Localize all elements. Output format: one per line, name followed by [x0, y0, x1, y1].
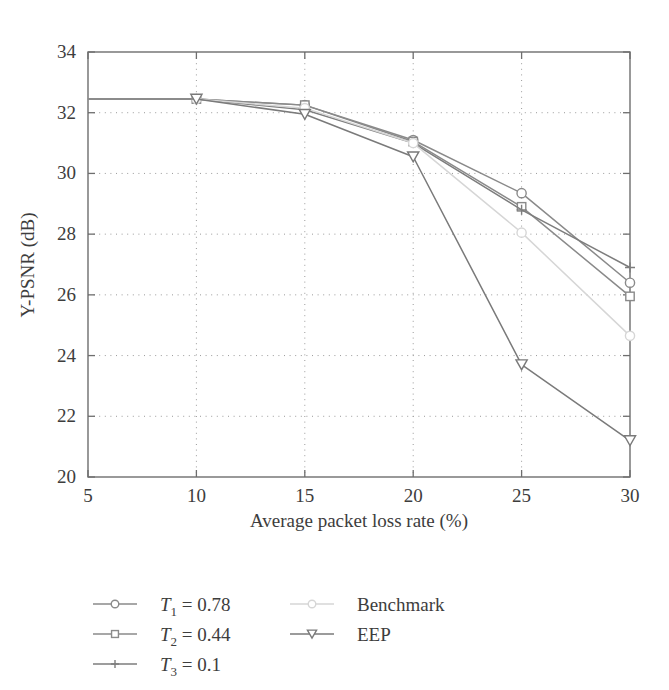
- legend-item-2[interactable]: T2 = 0.44: [93, 624, 231, 649]
- circle-marker: [517, 189, 526, 198]
- legend-label: EEP: [357, 624, 391, 645]
- gridlines: [88, 52, 630, 477]
- y-tick-label: 30: [57, 162, 76, 183]
- x-tick-label: 25: [512, 485, 531, 506]
- y-tick-label: 32: [57, 102, 76, 123]
- y-tick-label: 28: [57, 223, 76, 244]
- plus-marker: [111, 660, 119, 668]
- chart-svg: 2022242628303234 51015202530 Average pac…: [0, 0, 669, 690]
- x-tick-label: 15: [295, 485, 314, 506]
- x-axis-title: Average packet loss rate (%): [250, 510, 468, 532]
- circle-marker: [111, 600, 119, 608]
- circle-light-marker: [409, 138, 418, 147]
- legend-item-3[interactable]: T3 = 0.1: [93, 654, 221, 679]
- x-tick-label: 30: [621, 485, 640, 506]
- legend-label: T2 = 0.44: [160, 624, 231, 649]
- y-tick-labels: 2022242628303234: [57, 41, 77, 487]
- series-3: [88, 94, 635, 272]
- tick-marks: [88, 52, 630, 477]
- triangle-down-marker: [624, 436, 635, 446]
- square-marker: [626, 292, 634, 300]
- circle-light-marker: [308, 600, 316, 608]
- series-line: [88, 99, 630, 441]
- chart-legend: T1 = 0.78T2 = 0.44T3 = 0.1BenchmarkEEP: [93, 594, 445, 679]
- legend-item-5[interactable]: EEP: [290, 624, 391, 645]
- legend-label: T1 = 0.78: [160, 594, 231, 619]
- y-tick-label: 20: [57, 466, 76, 487]
- x-tick-labels: 51015202530: [83, 485, 639, 506]
- series-group: [88, 94, 636, 446]
- x-tick-label: 5: [83, 485, 93, 506]
- series-line: [88, 99, 630, 296]
- x-tick-label: 10: [187, 485, 206, 506]
- series-5: [88, 94, 636, 445]
- triangle-down-marker: [408, 152, 419, 162]
- series-line: [88, 99, 630, 336]
- y-tick-label: 26: [57, 284, 76, 305]
- y-axis-title: Y-PSNR (dB): [17, 212, 39, 317]
- plot-frame: [88, 52, 630, 477]
- series-line: [88, 99, 630, 267]
- plus-marker: [625, 263, 635, 273]
- y-tick-label: 24: [57, 345, 77, 366]
- legend-label: Benchmark: [357, 594, 445, 615]
- x-tick-label: 20: [404, 485, 423, 506]
- legend-item-1[interactable]: T1 = 0.78: [93, 594, 231, 619]
- y-tick-label: 34: [57, 41, 77, 62]
- legend-label: T3 = 0.1: [160, 654, 221, 679]
- y-tick-label: 22: [57, 405, 76, 426]
- series-4: [88, 94, 635, 340]
- circle-marker: [625, 278, 634, 287]
- legend-item-4[interactable]: Benchmark: [290, 594, 445, 615]
- square-marker: [112, 631, 119, 638]
- circle-light-marker: [517, 228, 526, 237]
- circle-light-marker: [625, 331, 634, 340]
- chart-figure: 2022242628303234 51015202530 Average pac…: [0, 0, 669, 690]
